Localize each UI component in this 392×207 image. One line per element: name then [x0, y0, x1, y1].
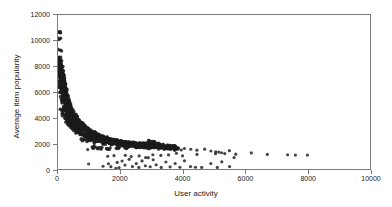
x-tick-label: 2000 — [112, 175, 128, 182]
x-axis-title: User activity — [0, 189, 392, 198]
scatter-points-svg — [58, 15, 370, 169]
x-tick-label: 10000 — [361, 175, 380, 182]
plot-area — [57, 14, 371, 170]
x-tick-label: 0 — [55, 175, 59, 182]
x-tick-label: 6000 — [238, 175, 254, 182]
x-tick-mark — [120, 170, 121, 174]
y-tick-label: 6000 — [0, 89, 50, 96]
y-tick-label: 4000 — [0, 115, 50, 122]
x-tick-mark — [371, 170, 372, 174]
x-tick-label: 8000 — [300, 175, 316, 182]
y-tick-label: 12000 — [0, 11, 50, 18]
x-tick-mark — [183, 170, 184, 174]
x-tick-mark — [57, 170, 58, 174]
scatter-plot-figure: 020004000600080001000012000 020004000600… — [0, 0, 392, 207]
y-tick-label: 2000 — [0, 141, 50, 148]
y-tick-label: 8000 — [0, 63, 50, 70]
scatter-points-layer — [58, 15, 370, 169]
x-tick-mark — [245, 170, 246, 174]
x-tick-label: 4000 — [175, 175, 191, 182]
y-tick-label: 0 — [0, 167, 50, 174]
x-tick-mark — [308, 170, 309, 174]
y-axis-title: Average item popularity — [12, 37, 21, 157]
y-tick-label: 10000 — [0, 37, 50, 44]
